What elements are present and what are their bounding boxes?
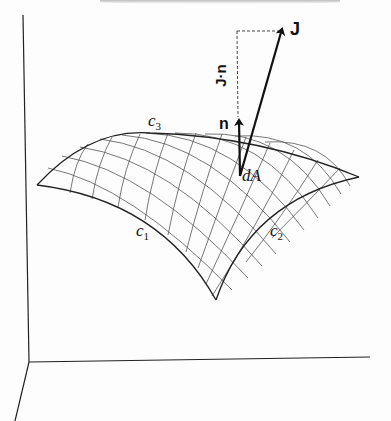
diagram-svg — [0, 0, 391, 421]
c3-subscript: 3 — [156, 120, 162, 132]
label-J: J — [290, 20, 300, 38]
current-vector-J — [240, 29, 282, 176]
vectors — [239, 29, 282, 176]
vertical-axis — [23, 15, 29, 362]
c2-letter: c — [270, 221, 278, 240]
c3-letter: c — [148, 111, 156, 130]
label-c3: c3 — [148, 112, 161, 132]
label-dA: dA — [242, 167, 261, 184]
label-c2: c2 — [270, 222, 283, 242]
label-n: n — [219, 116, 229, 132]
c1-letter: c — [136, 221, 144, 240]
normal-vector-n — [239, 120, 240, 176]
c2-subscript: 2 — [278, 230, 284, 242]
label-c1: c1 — [136, 222, 149, 242]
diagram-canvas: J J·n n dA c3 c1 c2 — [0, 0, 391, 421]
curve-c1 — [37, 185, 216, 300]
c1-subscript: 1 — [144, 230, 150, 242]
axes — [15, 15, 370, 421]
depth-axis — [15, 362, 29, 421]
horizontal-axis — [29, 357, 370, 362]
label-J-dot-n: J·n — [213, 64, 228, 87]
